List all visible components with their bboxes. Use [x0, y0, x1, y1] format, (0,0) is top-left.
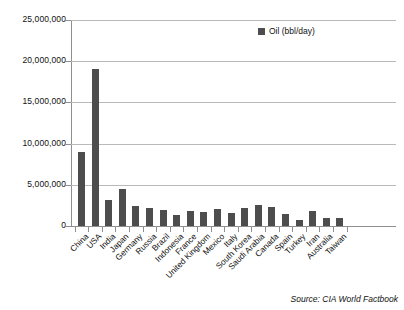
gridline [71, 102, 396, 103]
y-axis-tick-label: 15,000,000 [4, 97, 66, 106]
bar [173, 215, 180, 226]
bar [255, 205, 262, 226]
y-axis-tick-mark [64, 226, 71, 227]
gridline [71, 20, 396, 21]
y-axis-tick-mark [64, 61, 71, 62]
chart-legend: Oil (bbl/day) [258, 27, 315, 36]
bar [323, 218, 330, 226]
bar [282, 214, 289, 226]
bar [146, 208, 153, 226]
bar [200, 212, 207, 226]
bar [336, 218, 343, 226]
x-axis-category-labels: ChinaUSAIndiaJapanGermanyRussiaBrazilInd… [0, 232, 404, 294]
oil-consumption-bar-chart: 05,000,00010,000,00015,000,00020,000,000… [0, 0, 404, 310]
bar [268, 207, 275, 226]
y-axis-tick-label: 20,000,000 [4, 56, 66, 65]
y-axis-tick-label: 5,000,000 [4, 180, 66, 189]
bar [214, 209, 221, 226]
y-axis-tick-mark [64, 20, 71, 21]
legend-label-oil: Oil (bbl/day) [269, 27, 315, 36]
source-note: Source: CIA World Factbook [291, 294, 398, 304]
y-axis-tick-label: 0 [4, 221, 66, 230]
y-axis-tick-mark [64, 102, 71, 103]
gridline [71, 185, 396, 186]
bar [132, 206, 139, 226]
legend-swatch-oil [258, 28, 265, 35]
bar [309, 211, 316, 226]
y-axis-tick-mark [64, 144, 71, 145]
bar [92, 69, 99, 226]
bar [160, 210, 167, 226]
gridline [71, 61, 396, 62]
plot-area [71, 20, 396, 226]
gridline [71, 144, 396, 145]
bar [241, 208, 248, 226]
bar [78, 152, 85, 226]
y-axis-tick-label: 25,000,000 [4, 15, 66, 24]
y-axis-tick-mark [64, 185, 71, 186]
y-axis-tick-label: 10,000,000 [4, 139, 66, 148]
bar [187, 211, 194, 226]
bar [228, 213, 235, 226]
bar [105, 200, 112, 226]
bar [119, 189, 126, 226]
bar [296, 220, 303, 226]
